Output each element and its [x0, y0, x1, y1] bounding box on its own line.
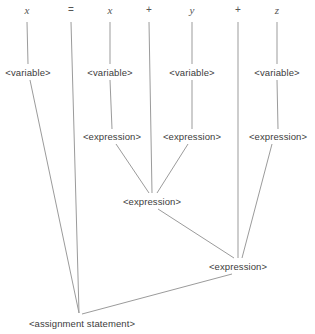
- node-expression-6: <expression>: [161, 131, 222, 142]
- node-variable-4: <variable>: [253, 67, 301, 78]
- node-variable-2: <variable>: [86, 67, 134, 78]
- tree-edge-expression-3-to-expression-5: [242, 144, 272, 258]
- tree-edges-layer: [0, 0, 315, 334]
- tree-edge-variable-1-to-assignment: [30, 80, 79, 313]
- token-operator-2: =: [68, 4, 74, 16]
- token-operator-6: +: [235, 4, 241, 16]
- token-identifier-3: x: [108, 4, 113, 16]
- node-assignment-statement-10: <assignment statement>: [27, 318, 136, 329]
- node-expression-8: <expression>: [121, 196, 182, 207]
- parse-tree-figure: x=x+y+z <variable><variable><variable><v…: [0, 0, 315, 334]
- token-identifier-1: x: [25, 4, 30, 16]
- node-expression-7: <expression>: [247, 131, 308, 142]
- node-variable-3: <variable>: [168, 67, 216, 78]
- tree-edge-expression-2-to-expression-4: [157, 144, 188, 193]
- tree-edge-variable-4-to-expression-3: [277, 80, 278, 129]
- token-operator-4: +: [146, 4, 152, 16]
- tree-edge-token-x-1-to-variable-1: [27, 22, 28, 64]
- node-expression-5: <expression>: [81, 131, 142, 142]
- tree-edge-token-equals-to-assignment: [71, 22, 79, 313]
- tree-edge-expression-4-to-expression-5: [158, 209, 234, 258]
- tree-edge-variable-2-to-expression-1: [110, 80, 112, 129]
- tree-edge-expression-5-to-assignment: [82, 274, 232, 314]
- tree-edge-token-plus-1-to-expression-4: [149, 22, 152, 193]
- token-identifier-5: y: [190, 4, 195, 16]
- tree-edge-expression-1-to-expression-4: [116, 144, 149, 193]
- node-variable-1: <variable>: [4, 67, 52, 78]
- node-expression-9: <expression>: [207, 261, 268, 272]
- token-identifier-7: z: [275, 4, 279, 16]
